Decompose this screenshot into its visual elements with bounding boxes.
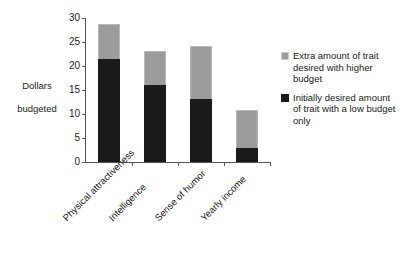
y-tick-label: 15 <box>69 85 80 95</box>
y-tick-label: 30 <box>69 13 80 23</box>
bar-segment-initial <box>144 85 166 162</box>
bar-3 <box>190 46 212 162</box>
plot-area: 051015202530 <box>86 18 270 162</box>
bar-4 <box>236 110 258 162</box>
bar-segment-extra <box>190 46 212 99</box>
y-tick-mark <box>82 66 86 67</box>
legend-item-initial: Initially desired amount of trait with a… <box>281 92 399 127</box>
y-tick-label: 25 <box>69 37 80 47</box>
stacked-bar-chart: Dollars budgeted 051015202530 Physical a… <box>0 0 403 260</box>
x-tick-mark <box>270 162 271 166</box>
y-tick-label: 5 <box>74 133 80 143</box>
bar-2 <box>144 51 166 162</box>
legend-label-initial: Initially desired amount of trait with a… <box>293 92 399 127</box>
y-tick-mark <box>82 162 86 163</box>
bar-segment-extra <box>98 24 120 59</box>
y-tick-mark <box>82 114 86 115</box>
legend-item-extra: Extra amount of trait desired with highe… <box>281 50 399 85</box>
x-axis-label-2: Intelligence <box>107 182 148 223</box>
y-axis-title-line1: Dollars <box>22 80 52 91</box>
y-tick-mark <box>82 90 86 91</box>
y-tick-label: 0 <box>74 157 80 167</box>
black-swatch-icon <box>281 94 289 102</box>
y-tick-mark <box>82 138 86 139</box>
chart-legend: Extra amount of trait desired with highe… <box>281 50 399 133</box>
y-tick-mark <box>82 42 86 43</box>
x-tick-mark <box>178 162 179 166</box>
bar-segment-extra <box>236 110 258 148</box>
legend-label-extra: Extra amount of trait desired with highe… <box>293 50 399 85</box>
gray-swatch-icon <box>281 52 289 60</box>
x-tick-mark <box>224 162 225 166</box>
bar-segment-initial <box>98 59 120 162</box>
y-tick-label: 20 <box>69 61 80 71</box>
bar-1 <box>98 24 120 162</box>
y-tick-mark <box>82 18 86 19</box>
y-tick-label: 10 <box>69 109 80 119</box>
x-tick-mark <box>132 162 133 166</box>
bar-segment-initial <box>236 148 258 162</box>
bar-segment-extra <box>144 51 166 85</box>
bar-segment-initial <box>190 99 212 162</box>
y-axis-title-line2: budgeted <box>17 103 57 114</box>
y-axis-title: Dollars budgeted <box>8 68 66 114</box>
x-axis-label-4: Yearly income <box>199 174 248 223</box>
